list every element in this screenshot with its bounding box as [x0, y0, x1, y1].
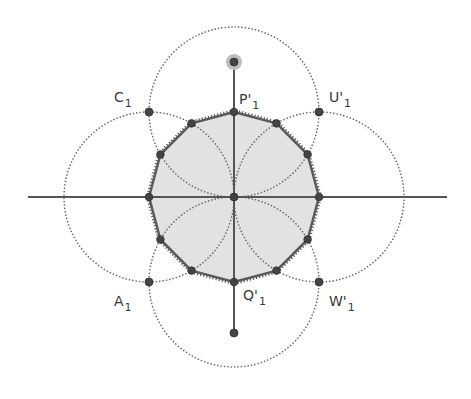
- label-main: U': [329, 89, 343, 105]
- label-subscript: 1: [252, 99, 259, 112]
- label-subscript: 1: [125, 97, 132, 110]
- label-A1: A1: [114, 293, 132, 314]
- vertex-point[interactable]: [145, 193, 153, 201]
- label-Q1: Q'1: [243, 287, 266, 308]
- label-main: C: [114, 89, 124, 105]
- label-main: A: [114, 293, 124, 309]
- vertex-point[interactable]: [230, 108, 238, 116]
- vertex-point[interactable]: [188, 267, 196, 275]
- vertex-point[interactable]: [273, 120, 281, 128]
- geometry-canvas: C1P'1U'1A1Q'1W'1: [0, 0, 471, 399]
- center-point[interactable]: [230, 193, 238, 201]
- label-main: Q': [243, 287, 258, 303]
- label-main: P': [239, 91, 251, 107]
- vertex-point[interactable]: [157, 236, 165, 244]
- label-P1: P'1: [239, 91, 259, 112]
- point-C1[interactable]: [145, 108, 153, 116]
- label-subscript: 1: [125, 301, 132, 314]
- label-C1: C1: [114, 89, 132, 110]
- top-handle-point[interactable]: [230, 58, 238, 66]
- vertex-point[interactable]: [315, 193, 323, 201]
- vertex-point[interactable]: [157, 151, 165, 159]
- label-W1: W'1: [329, 293, 355, 314]
- label-subscript: 1: [344, 97, 351, 110]
- vertex-point[interactable]: [273, 267, 281, 275]
- vertex-point[interactable]: [230, 278, 238, 286]
- vertex-point[interactable]: [188, 120, 196, 128]
- vertex-point[interactable]: [304, 236, 312, 244]
- label-main: W': [329, 293, 347, 309]
- label-subscript: 1: [348, 301, 355, 314]
- label-U1: U'1: [329, 89, 351, 110]
- point-W1[interactable]: [315, 278, 323, 286]
- bottom-point[interactable]: [230, 329, 238, 337]
- point-U1[interactable]: [315, 108, 323, 116]
- label-subscript: 1: [259, 295, 266, 308]
- vertex-point[interactable]: [304, 151, 312, 159]
- point-A1[interactable]: [145, 278, 153, 286]
